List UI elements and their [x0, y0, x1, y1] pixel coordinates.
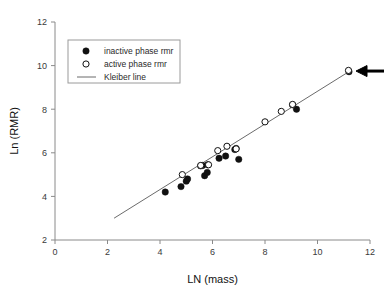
data-point-inactive — [184, 176, 190, 182]
data-point-inactive — [162, 189, 168, 195]
data-point-active — [345, 67, 351, 73]
data-point-active — [198, 162, 204, 168]
x-tick-label: 10 — [312, 247, 322, 257]
legend-label-active: active phase rmr — [104, 59, 167, 69]
x-tick-label: 0 — [52, 247, 57, 257]
data-point-active — [262, 119, 268, 125]
y-tick-label: 10 — [37, 61, 47, 71]
legend-label-inactive: inactive phase rmr — [104, 46, 174, 56]
x-axis-title: LN (mass) — [187, 273, 238, 285]
legend-marker-inactive — [83, 48, 89, 54]
x-tick-label: 12 — [365, 247, 375, 257]
y-tick-label: 8 — [42, 105, 47, 115]
data-point-inactive — [236, 156, 242, 162]
data-point-inactive — [222, 153, 228, 159]
y-axis-title: Ln (RMR) — [8, 107, 20, 155]
kleiber-line — [114, 70, 352, 218]
legend-label-kleiber: Kleiber line — [104, 72, 146, 82]
y-tick-label: 6 — [42, 148, 47, 158]
data-point-active — [233, 146, 239, 152]
chart-figure: 02468101224681012LN (mass)Ln (RMR)inacti… — [0, 0, 385, 293]
data-point-active — [179, 172, 185, 178]
x-tick-label: 2 — [105, 247, 110, 257]
data-point-active — [215, 148, 221, 154]
data-point-active — [205, 162, 211, 168]
legend-marker-active — [83, 61, 89, 67]
data-point-inactive — [216, 155, 222, 161]
x-tick-label: 6 — [210, 247, 215, 257]
x-tick-label: 8 — [262, 247, 267, 257]
data-point-inactive — [204, 169, 210, 175]
data-point-inactive — [178, 183, 184, 189]
annotation-arrow-icon — [356, 66, 384, 77]
data-point-active — [278, 108, 284, 114]
y-tick-label: 4 — [42, 192, 47, 202]
y-tick-label: 12 — [37, 17, 47, 27]
scatter-plot: 02468101224681012LN (mass)Ln (RMR)inacti… — [0, 0, 385, 293]
data-point-active — [224, 143, 230, 149]
x-tick-label: 4 — [157, 247, 162, 257]
data-point-active — [289, 101, 295, 107]
y-tick-label: 2 — [42, 235, 47, 245]
